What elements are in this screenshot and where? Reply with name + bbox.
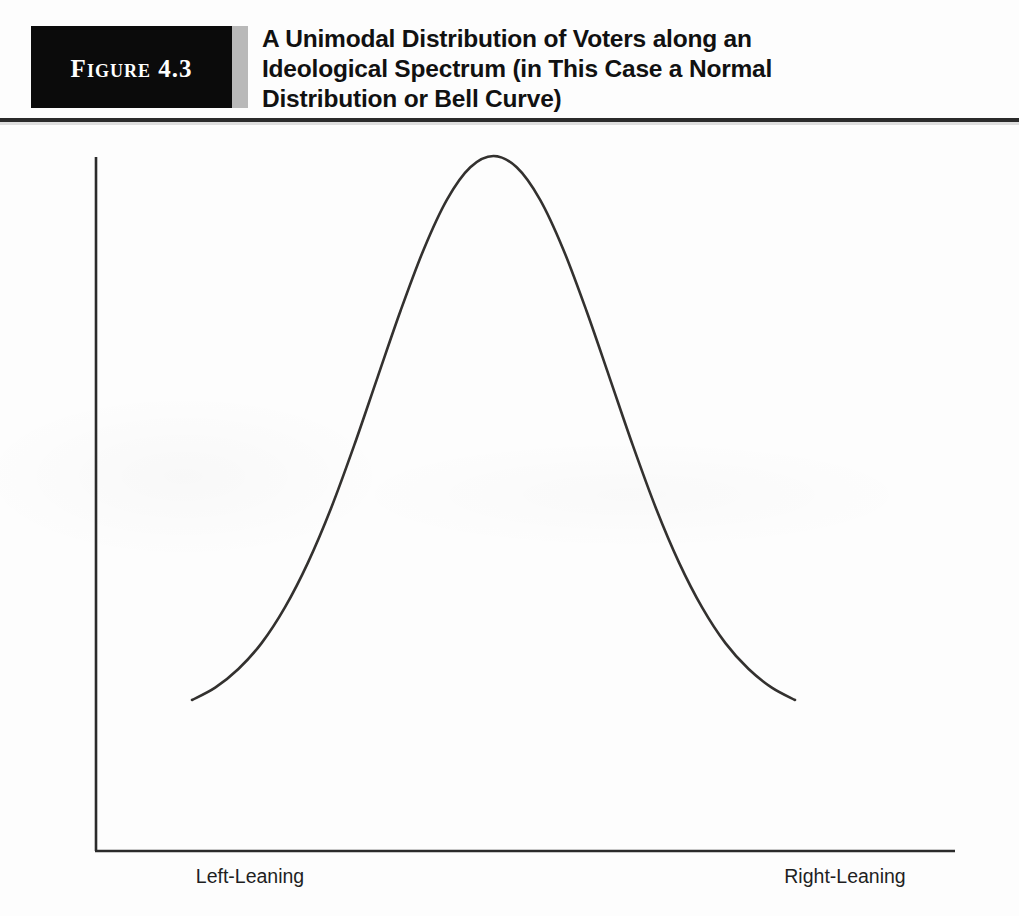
figure-title-line-3: Distribution or Bell Curve) bbox=[262, 84, 962, 114]
figure-number-badge: Figure 4.3 bbox=[31, 26, 232, 108]
chart-area: Number of Voters Left-Leaning Right-Lean… bbox=[0, 130, 1019, 916]
figure-page: Figure 4.3 A Unimodal Distribution of Vo… bbox=[0, 0, 1019, 916]
header-divider-shadow bbox=[0, 122, 1019, 125]
figure-number-label: Figure 4.3 bbox=[71, 55, 193, 83]
figure-header: Figure 4.3 A Unimodal Distribution of Vo… bbox=[0, 0, 1019, 130]
figure-title-line-2: Ideological Spectrum (in This Case a Nor… bbox=[262, 54, 962, 84]
x-axis-tick-label-left: Left-Leaning bbox=[150, 865, 350, 888]
figure-title-line-1: A Unimodal Distribution of Voters along … bbox=[262, 24, 962, 54]
bell-curve-plot bbox=[0, 130, 1019, 916]
figure-badge-accent-bar bbox=[232, 26, 248, 108]
normal-distribution-curve bbox=[192, 156, 795, 700]
figure-title: A Unimodal Distribution of Voters along … bbox=[262, 24, 962, 114]
x-axis-tick-label-right: Right-Leaning bbox=[745, 865, 945, 888]
